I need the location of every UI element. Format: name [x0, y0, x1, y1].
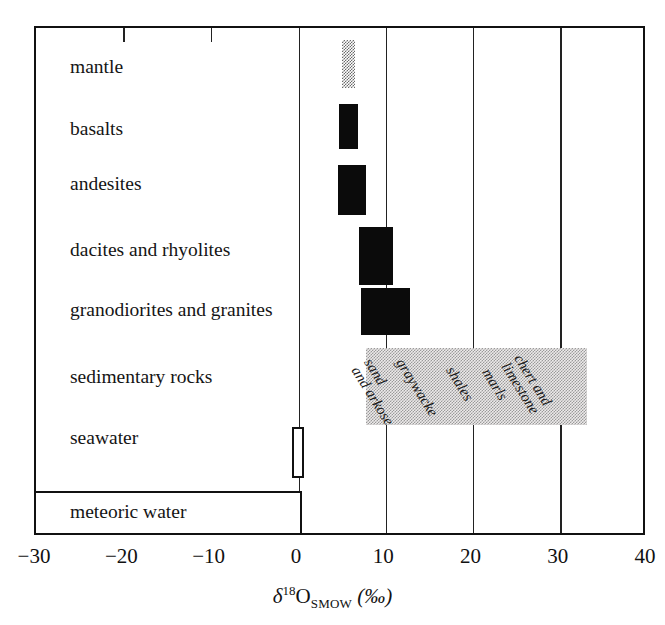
- bar-mantle: [342, 40, 355, 88]
- bar-dacites-and-rhyolites: [359, 227, 393, 285]
- xtick-label-10: 10: [373, 544, 394, 569]
- oxygen-isotope-range-chart: sand and arkose graywacke shales marls c…: [0, 0, 665, 625]
- bar-andesites: [338, 165, 366, 215]
- unit-permil: (‰): [357, 584, 392, 608]
- row-label-basalts: basalts: [70, 119, 123, 139]
- row-label-mantle: mantle: [70, 57, 123, 77]
- bar-seawater: [292, 427, 304, 478]
- gridline-20: [473, 28, 474, 533]
- row-label-meteoric-water: meteoric water: [70, 502, 186, 522]
- isotope-superscript: 18: [283, 583, 296, 598]
- xtick-label-40: 40: [635, 544, 656, 569]
- xtick-label-minus10: −10: [192, 544, 225, 569]
- gridline-30: [560, 28, 561, 533]
- xtick-label-minus20: −20: [105, 544, 138, 569]
- sub-label-shales: shales: [443, 364, 476, 404]
- xtick-label-20: 20: [460, 544, 481, 569]
- tick-top-minus10: [211, 28, 212, 42]
- row-label-dacites-and-rhyolites: dacites and rhyolites: [70, 240, 230, 260]
- xtick-label-minus30: −30: [18, 544, 51, 569]
- element-symbol: O: [296, 584, 311, 608]
- bar-granodiorites-and-granites: [361, 288, 411, 335]
- row-label-seawater: seawater: [70, 428, 138, 448]
- row-label-sedimentary-rocks: sedimentary rocks: [70, 367, 212, 387]
- tick-top-minus20: [123, 28, 124, 42]
- plot-area: sand and arkose graywacke shales marls c…: [34, 26, 645, 535]
- row-label-granodiorites-and-granites: granodiorites and granites: [70, 300, 273, 320]
- row-label-andesites: andesites: [70, 174, 141, 194]
- bar-basalts: [339, 104, 358, 149]
- xtick-label-30: 30: [547, 544, 568, 569]
- bar-sedimentary-rocks: sand and arkose graywacke shales marls c…: [366, 348, 587, 425]
- x-axis-title: δ18OSMOW (‰): [0, 583, 665, 612]
- xtick-label-0: 0: [291, 544, 302, 569]
- delta-symbol: δ: [273, 584, 283, 608]
- sub-label-chert-and-limestone: chert and limestone: [498, 352, 554, 417]
- standard-subscript: SMOW: [311, 596, 352, 611]
